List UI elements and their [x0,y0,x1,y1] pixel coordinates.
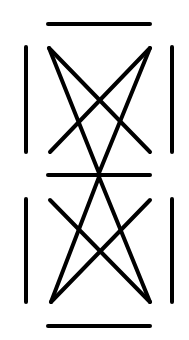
lower-line-3 [51,177,99,302]
lower-line-4 [99,177,150,302]
diagram-canvas [0,0,189,340]
lower-crossed-figure [50,177,150,302]
line-art-diagram [0,0,189,340]
upper-line-4 [99,48,150,173]
upper-crossed-figure [49,48,150,173]
